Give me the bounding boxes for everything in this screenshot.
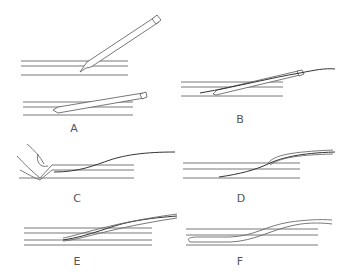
needle-icon: [80, 15, 161, 72]
procedure-diagram: [0, 0, 350, 280]
panel-f: [186, 220, 332, 245]
panel-a-top: [21, 15, 161, 75]
panel-a-bottom: [23, 92, 147, 115]
panel-b: [181, 69, 335, 96]
panel-c: [17, 144, 175, 180]
panel-label-f: F: [237, 255, 243, 268]
panel-label-e: E: [74, 255, 81, 268]
panel-label-a: A: [70, 122, 78, 135]
panel-e: [24, 214, 177, 245]
panel-label-c: C: [73, 192, 81, 205]
panel-d: [183, 150, 335, 178]
panel-label-b: B: [236, 113, 244, 126]
panel-label-d: D: [237, 192, 245, 205]
